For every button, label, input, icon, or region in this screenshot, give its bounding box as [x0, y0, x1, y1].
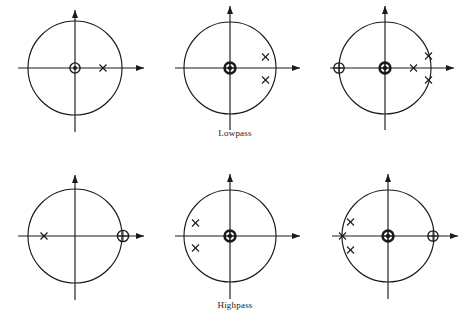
origin-marker	[225, 231, 236, 242]
zero-marker	[428, 231, 438, 241]
imaginary-axis-arrowhead	[385, 174, 391, 182]
imaginary-axis-arrowhead	[382, 6, 388, 14]
imaginary-axis-arrowhead	[227, 174, 233, 182]
caption-highpass: Highpass	[190, 300, 280, 310]
real-axis-arrowhead	[292, 233, 300, 239]
plot-highpass-order-3	[318, 172, 464, 312]
plot-canvas	[163, 4, 311, 134]
plot-highpass-order-1	[8, 172, 156, 312]
pole-marker	[347, 219, 354, 226]
pole-marker	[192, 245, 199, 252]
zero-marker	[117, 230, 128, 241]
plot-lowpass-order-3	[318, 4, 464, 134]
plot-canvas	[318, 172, 464, 312]
plot-canvas	[318, 4, 464, 134]
plot-lowpass-order-1	[8, 4, 156, 134]
plot-canvas	[163, 172, 311, 312]
real-axis-arrowhead	[292, 65, 300, 71]
pole-marker	[192, 220, 199, 227]
plot-lowpass-order-2	[163, 4, 311, 134]
pole-marker	[262, 54, 269, 61]
origin-marker	[225, 63, 236, 74]
zero-marker	[334, 63, 344, 73]
real-axis-arrowhead	[446, 65, 454, 71]
real-axis-arrowhead	[450, 233, 458, 239]
pole-zero-figure: Lowpass	[0, 0, 464, 323]
pole-marker	[262, 77, 269, 84]
plot-canvas	[8, 4, 156, 134]
imaginary-axis-arrowhead	[72, 175, 78, 183]
imaginary-axis-arrowhead	[72, 10, 78, 18]
origin-marker	[380, 63, 391, 74]
pole-marker	[347, 247, 354, 254]
origin-marker	[383, 231, 394, 242]
imaginary-axis-arrowhead	[227, 6, 233, 14]
real-axis-arrowhead	[136, 233, 144, 239]
real-axis-arrowhead	[136, 65, 144, 71]
caption-lowpass: Lowpass	[190, 128, 280, 138]
plot-highpass-order-2	[163, 172, 311, 312]
plot-canvas	[8, 172, 156, 312]
